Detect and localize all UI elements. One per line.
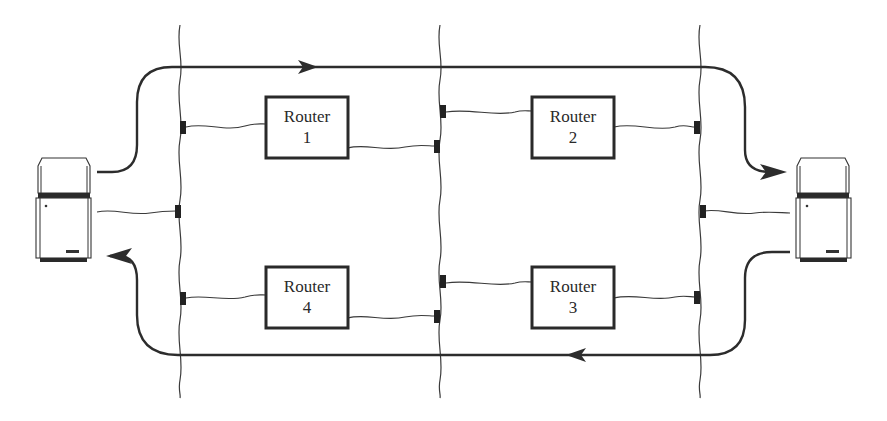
network-line-middle <box>439 25 441 398</box>
network-routing-diagram: Router 1 Router 2 Router 3 Router 4 <box>0 0 887 421</box>
tap-left-host <box>175 205 181 218</box>
router-4-label: Router <box>284 277 331 296</box>
tap-right-r2 <box>694 121 700 134</box>
router-4: Router 4 <box>266 267 348 328</box>
tap-middle-r1 <box>434 140 440 153</box>
arrowhead-into-left-host-icon <box>106 248 132 264</box>
tap-right-host <box>700 205 706 218</box>
router-1-number: 1 <box>303 128 312 147</box>
router-2: Router 2 <box>532 97 614 158</box>
router-3-number: 3 <box>569 298 578 317</box>
forward-path <box>97 60 787 180</box>
tap-middle-r4 <box>434 310 440 323</box>
tap-left-r1 <box>180 121 186 134</box>
router-3-label: Router <box>550 277 597 296</box>
host-left <box>36 158 91 262</box>
router-3: Router 3 <box>532 267 614 328</box>
router-2-number: 2 <box>569 128 578 147</box>
computer-icon <box>36 158 91 262</box>
tap-right-r3 <box>694 291 700 304</box>
host-right <box>796 158 851 262</box>
computer-icon <box>796 158 851 262</box>
router-2-label: Router <box>550 107 597 126</box>
tap-middle-r2 <box>440 105 446 118</box>
tap-left-r4 <box>180 292 186 305</box>
host-wires <box>97 210 790 213</box>
router-4-number: 4 <box>303 298 312 317</box>
network-lines <box>179 25 701 398</box>
router-1-label: Router <box>284 107 331 126</box>
tap-middle-r3 <box>440 275 446 288</box>
router-1: Router 1 <box>266 97 348 158</box>
return-path <box>106 248 790 362</box>
